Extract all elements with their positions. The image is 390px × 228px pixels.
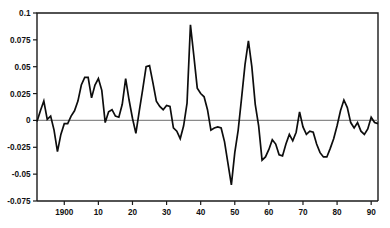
x-tick-label: 40 [196, 208, 206, 217]
x-tick-label: 30 [162, 208, 172, 217]
plot-background [0, 0, 390, 228]
y-tick-label: -0.05 [12, 170, 31, 179]
x-tick-label: 90 [367, 208, 377, 217]
x-tick-label: 50 [230, 208, 240, 217]
y-tick-label: 0.025 [10, 90, 31, 99]
x-tick-label: 80 [333, 208, 343, 217]
line-chart-plot: 0.10.0750.050.0250-0.025-0.05-0.075 1900… [0, 0, 390, 228]
x-tick-label: 70 [298, 208, 308, 217]
x-tick-label: 60 [264, 208, 274, 217]
y-tick-label: -0.075 [7, 197, 31, 206]
y-tick-label: 0.075 [10, 36, 31, 45]
y-tick-label: 0.1 [19, 9, 31, 18]
y-tick-label: 0 [26, 116, 31, 125]
y-tick-label: 0.05 [15, 63, 31, 72]
chart-container: 0.10.0750.050.0250-0.025-0.05-0.075 1900… [0, 0, 390, 228]
x-tick-label: 20 [128, 208, 138, 217]
x-tick-label: 1900 [55, 208, 74, 217]
x-tick-label: 10 [94, 208, 104, 217]
y-tick-label: -0.025 [7, 143, 31, 152]
